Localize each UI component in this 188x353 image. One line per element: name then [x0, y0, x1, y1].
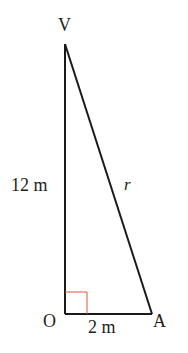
hypotenuse-label: r	[124, 175, 131, 194]
base-side-label: 2 m	[88, 317, 116, 337]
vertical-side-label: 12 m	[11, 175, 48, 195]
vertex-label-v: V	[58, 15, 71, 35]
vertex-label-a: A	[153, 311, 166, 331]
vertex-label-o: O	[43, 311, 56, 331]
triangle-diagram: V O A 12 m r 2 m	[0, 0, 188, 353]
side-va-hypotenuse	[65, 44, 152, 314]
right-angle-marker	[65, 292, 87, 314]
